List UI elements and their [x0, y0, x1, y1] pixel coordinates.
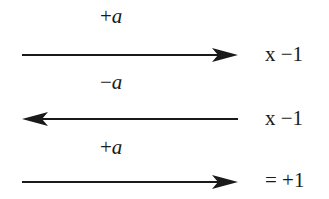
row3-result: = +1: [265, 170, 304, 191]
